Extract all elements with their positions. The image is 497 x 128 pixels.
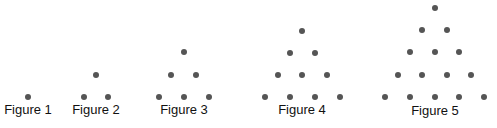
dot xyxy=(407,49,413,55)
dot xyxy=(262,94,268,100)
dot-pattern-diagram: Figure 1Figure 2Figure 3Figure 4Figure 5 xyxy=(0,0,497,128)
figure-label: Figure 5 xyxy=(411,104,459,118)
dot xyxy=(407,94,413,100)
dot xyxy=(287,94,293,100)
dot xyxy=(456,94,462,100)
dot xyxy=(432,94,438,100)
dot xyxy=(299,72,305,78)
dot xyxy=(181,94,187,100)
dot xyxy=(337,94,343,100)
figure-label: Figure 3 xyxy=(160,103,208,117)
dot xyxy=(25,94,31,100)
dot xyxy=(395,72,401,78)
dot xyxy=(206,94,212,100)
dot xyxy=(444,27,450,33)
dot xyxy=(419,27,425,33)
dot xyxy=(382,94,388,100)
dot xyxy=(168,72,174,78)
dot xyxy=(105,94,111,100)
dot xyxy=(93,72,99,78)
figure-label: Figure 4 xyxy=(278,103,326,117)
dot xyxy=(432,5,438,11)
figure-label: Figure 2 xyxy=(72,103,120,117)
dot xyxy=(156,94,162,100)
dot xyxy=(181,49,187,55)
dot xyxy=(432,49,438,55)
dot xyxy=(468,72,474,78)
dot xyxy=(312,94,318,100)
dot xyxy=(481,94,487,100)
dot xyxy=(444,72,450,78)
dot xyxy=(456,49,462,55)
figure-label: Figure 1 xyxy=(4,103,52,117)
dot xyxy=(324,72,330,78)
dot xyxy=(312,50,318,56)
dot xyxy=(193,72,199,78)
dot xyxy=(275,72,281,78)
dot xyxy=(419,72,425,78)
dot xyxy=(287,50,293,56)
dot xyxy=(81,94,87,100)
dot xyxy=(299,28,305,34)
